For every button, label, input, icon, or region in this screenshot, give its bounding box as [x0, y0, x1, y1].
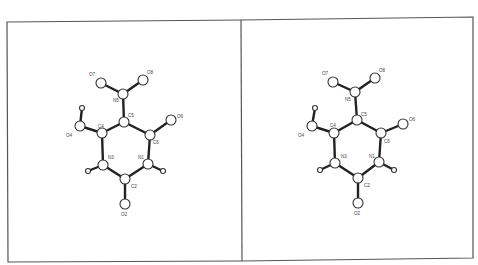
atom-label-c2: C2: [364, 183, 370, 188]
atom-o8: [138, 75, 148, 85]
atom-label-n3: N3: [341, 154, 347, 159]
atom-label-o6: O6: [177, 114, 184, 119]
atom-o8: [370, 73, 380, 83]
atom-c2: [120, 174, 130, 184]
atom-h4: [313, 106, 318, 111]
atom-o2: [353, 198, 363, 208]
atom-h1: [161, 169, 166, 174]
atom-c4: [329, 128, 339, 138]
atom-c2: [353, 173, 363, 183]
atom-label-o8: O8: [147, 70, 154, 75]
atom-h3: [86, 169, 91, 174]
atom-n5: [350, 87, 360, 97]
atom-label-c4: C4: [98, 124, 104, 129]
atom-label-c2: C2: [131, 184, 137, 189]
atom-label-o6: O6: [409, 117, 416, 122]
atom-label-o4: O4: [66, 133, 73, 138]
atom-label-c6: C6: [384, 139, 390, 144]
right-stereo-panel: O7O8N5C5O6C6C4O4N3N1C2O2: [298, 68, 416, 216]
atom-label-c4: C4: [330, 123, 336, 128]
atom-label-c6: C6: [153, 140, 159, 145]
atom-o4: [307, 121, 317, 131]
atom-o2: [120, 199, 130, 209]
atom-c6: [145, 130, 155, 140]
atom-o6: [166, 115, 176, 125]
atom-label-n5: N5: [113, 98, 119, 103]
atom-label-o7: O7: [89, 72, 96, 77]
atom-h1: [392, 168, 397, 173]
atom-label-o2: O2: [121, 212, 128, 217]
frame: [7, 17, 473, 262]
atom-label-o4: O4: [298, 133, 305, 138]
atom-n3: [330, 158, 340, 168]
atom-label-n1: N1: [138, 155, 144, 160]
atom-n5: [118, 89, 128, 99]
atom-o7: [96, 78, 106, 88]
atom-h3: [318, 168, 323, 173]
atom-label-o7: O7: [322, 71, 329, 76]
atom-o4: [75, 121, 85, 131]
atom-n1: [143, 159, 153, 169]
atom-label-n5: N5: [345, 97, 351, 102]
atom-label-n3: N3: [108, 155, 114, 160]
atom-n3: [98, 160, 108, 170]
atom-o7: [328, 77, 338, 87]
panel-divider: [241, 20, 242, 261]
stereo-diagram: O7O8N5C5O6C6C4O4N3N1C2O2 O7O8N5C5O6C6C4O…: [0, 0, 478, 265]
atom-n1: [374, 157, 384, 167]
atom-h4: [80, 106, 85, 111]
atom-label-o2: O2: [354, 211, 361, 216]
atom-c4: [97, 128, 107, 138]
atom-c5: [119, 117, 129, 127]
atom-label-c5: C5: [361, 112, 367, 117]
atom-c6: [376, 128, 386, 138]
atom-label-n1: N1: [369, 154, 375, 159]
left-stereo-panel: O7O8N5C5O6C6C4O4N3N1C2O2: [66, 70, 184, 217]
atom-o6: [398, 119, 408, 129]
atom-label-c5: C5: [128, 113, 134, 118]
atom-label-o8: O8: [379, 68, 386, 73]
